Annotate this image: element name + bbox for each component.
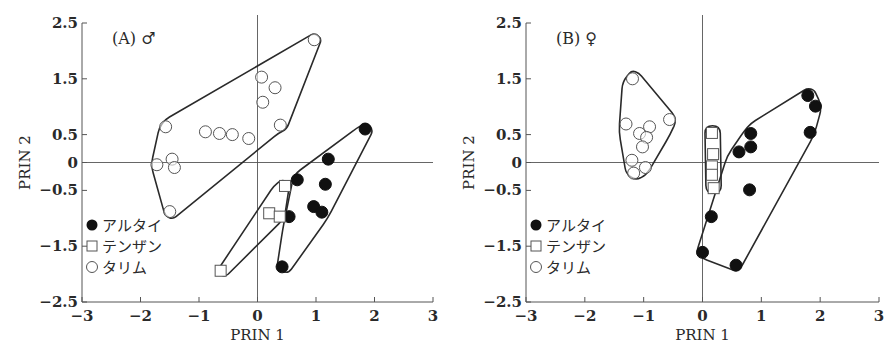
data-point-tarim — [628, 167, 640, 179]
y-tick-label: 1.5 — [52, 70, 78, 88]
panel-a-male: −3−2−101232.51.50.50−0.5−1.5−2.5PRIN 1PR… — [16, 14, 438, 344]
data-point-tenzan — [706, 169, 717, 180]
y-tick-label: −1.5 — [483, 237, 522, 255]
y-tick-label: 2.5 — [52, 14, 78, 32]
y-tick-label: 0.5 — [52, 126, 78, 144]
x-tick-label: −2 — [129, 307, 152, 325]
data-point-altai — [697, 246, 709, 258]
x-axis-title: PRIN 1 — [230, 326, 285, 344]
y-tick-label: −2.5 — [483, 293, 522, 311]
data-point-tenzan — [706, 127, 717, 138]
legend-open-circle-icon — [531, 262, 542, 273]
legend-open-circle-icon — [87, 262, 98, 273]
data-point-tarim — [664, 114, 676, 126]
x-tick-label: 2 — [369, 307, 379, 325]
data-point-altai — [745, 141, 757, 153]
x-tick-label: 3 — [874, 307, 884, 325]
data-point-altai — [733, 146, 745, 158]
data-point-altai — [322, 153, 334, 165]
legend-label: テンザン — [546, 238, 606, 256]
data-point-tenzan — [215, 265, 226, 276]
y-tick-label: 0 — [68, 154, 78, 172]
group-hull-outline — [152, 34, 321, 218]
data-point-tarim — [164, 206, 176, 218]
data-point-altai — [804, 126, 816, 138]
data-point-tarim — [213, 127, 225, 139]
data-point-tarim — [168, 162, 180, 174]
data-point-tenzan — [708, 183, 719, 194]
data-point-tarim — [226, 129, 238, 141]
legend-open-square-icon — [87, 241, 97, 251]
panel-label: (A) ♂ — [112, 29, 155, 48]
y-tick-label: 1.5 — [496, 70, 522, 88]
data-point-tarim — [160, 121, 172, 133]
x-tick-label: 0 — [252, 307, 262, 325]
data-point-altai — [802, 90, 814, 102]
data-point-tarim — [274, 119, 286, 131]
x-tick-label: 2 — [815, 307, 825, 325]
group-hull-outline — [278, 124, 372, 272]
y-tick-label: 2.5 — [496, 14, 522, 32]
panel-label: (B) ♀ — [556, 29, 597, 48]
x-tick-label: −2 — [573, 307, 596, 325]
data-point-tarim — [243, 133, 255, 145]
pca-scatter-figure: −3−2−101232.51.50.50−0.5−1.5−2.5PRIN 1PR… — [0, 0, 891, 357]
data-point-tarim — [636, 141, 648, 153]
y-axis-title: PRIN 2 — [16, 135, 34, 190]
data-point-tarim — [620, 118, 632, 130]
y-tick-label: −1.5 — [39, 237, 78, 255]
x-tick-label: 3 — [428, 307, 438, 325]
data-point-altai — [705, 211, 717, 223]
legend-label: アルタイ — [102, 217, 162, 235]
y-tick-label: 0.5 — [496, 126, 522, 144]
data-point-tarim — [626, 154, 638, 166]
data-point-tarim — [151, 159, 163, 171]
data-point-tarim — [639, 162, 651, 174]
data-point-tenzan — [279, 180, 290, 191]
x-tick-label: 0 — [697, 307, 707, 325]
data-point-altai — [276, 261, 288, 273]
y-tick-label: 0 — [512, 154, 522, 172]
y-tick-label: −0.5 — [483, 181, 522, 199]
data-point-tenzan — [274, 211, 285, 222]
data-point-tarim — [199, 126, 211, 138]
y-tick-label: −2.5 — [39, 293, 78, 311]
data-point-altai — [730, 259, 742, 271]
data-point-tarim — [308, 34, 320, 46]
panel-b-female: −3−2−101232.51.50.50−0.5−1.5−2.5PRIN 1PR… — [460, 14, 884, 344]
data-point-tenzan — [708, 149, 719, 160]
y-tick-label: −0.5 — [39, 181, 78, 199]
legend-label: アルタイ — [546, 217, 606, 235]
y-axis-title: PRIN 2 — [460, 135, 478, 190]
data-point-altai — [319, 178, 331, 190]
data-point-altai — [745, 127, 757, 139]
data-point-altai — [316, 206, 328, 218]
legend-label: テンザン — [102, 238, 162, 256]
legend-label: タリム — [546, 259, 591, 277]
data-point-tarim — [256, 71, 268, 83]
legend-filled-circle-icon — [87, 220, 98, 231]
legend-open-square-icon — [531, 241, 541, 251]
x-tick-label: −1 — [632, 307, 655, 325]
x-tick-label: 1 — [756, 307, 766, 325]
data-point-altai — [359, 123, 371, 135]
legend: アルタイテンザンタリム — [87, 217, 163, 277]
x-tick-label: −1 — [187, 307, 210, 325]
data-point-tarim — [269, 82, 281, 94]
x-tick-label: 1 — [311, 307, 321, 325]
data-point-altai — [809, 100, 821, 112]
data-point-altai — [744, 184, 756, 196]
data-point-tenzan — [264, 208, 275, 219]
legend: アルタイテンザンタリム — [531, 217, 607, 277]
x-axis-title: PRIN 1 — [675, 326, 730, 344]
legend-filled-circle-icon — [531, 220, 542, 231]
legend-label: タリム — [102, 259, 147, 277]
data-point-tarim — [257, 96, 269, 108]
data-point-altai — [291, 174, 303, 186]
data-point-tarim — [626, 73, 638, 85]
